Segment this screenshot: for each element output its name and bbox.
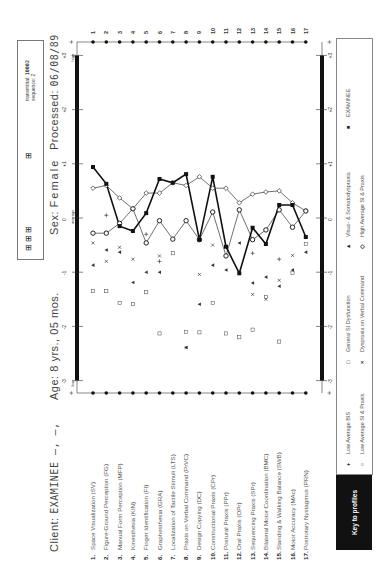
- score-tick-label: +3: [61, 53, 67, 59]
- row-dot: [184, 40, 188, 44]
- circle-marker-icon: [277, 208, 281, 212]
- score-tick-label: -2: [327, 325, 333, 329]
- triangle-marker-icon: [158, 270, 161, 274]
- key-to-profiles-title: Key to profiles: [336, 475, 372, 550]
- examinee-marker-icon: [158, 177, 162, 181]
- circle-marker-icon: [290, 225, 294, 229]
- triangle-marker-icon: [277, 284, 280, 288]
- circle-marker-icon: [91, 231, 95, 235]
- item-number: 11: [223, 28, 229, 34]
- triangle-marker-icon: [211, 263, 214, 267]
- row-dot: [277, 40, 281, 44]
- row-dot: [238, 391, 242, 395]
- row-dot: [131, 40, 135, 44]
- row-dot: [304, 40, 308, 44]
- square-marker-icon: [198, 331, 201, 334]
- triangle-marker-icon: [131, 281, 134, 285]
- score-tick-label: 0: [61, 218, 67, 221]
- square-marker-icon: [224, 332, 227, 335]
- legend-entry: □General SI Dysfunction: [345, 295, 351, 364]
- examinee-marker-icon: [237, 271, 241, 275]
- triangle-marker-icon: [264, 275, 267, 279]
- legend-symbol-icon: +: [345, 454, 351, 466]
- row-dot: [198, 40, 202, 44]
- triangle-marker-icon: [144, 270, 147, 274]
- legend-entry: ■EXAMINEE: [345, 89, 351, 129]
- circle-marker-icon: [184, 219, 188, 223]
- triangle-marker-icon: [91, 263, 94, 267]
- score-tick-label: -3: [327, 379, 333, 383]
- examinee-marker-icon: [251, 226, 255, 230]
- row-dot: [144, 40, 148, 44]
- circle-marker-icon: [264, 228, 268, 232]
- square-marker-icon: [145, 291, 148, 294]
- series-line-high-average-si-praxis: [93, 177, 306, 211]
- item-number: 13: [250, 28, 256, 34]
- series-line-low-average-si-praxis: [93, 209, 306, 256]
- row-dot: [224, 40, 228, 44]
- item-number: 10: [210, 28, 216, 34]
- item-number: 17: [303, 28, 309, 34]
- examinee-marker-icon: [224, 245, 228, 249]
- legend-label: General SI Dysfunction: [345, 295, 351, 352]
- score-tick-label: -1: [327, 271, 333, 275]
- square-marker-icon: [238, 336, 241, 339]
- square-marker-icon: [211, 301, 214, 304]
- diamond-marker-icon: [250, 192, 255, 197]
- examinee-marker-icon: [291, 203, 295, 207]
- diamond-marker-icon: [91, 186, 96, 191]
- row-dot: [158, 40, 162, 44]
- legend-symbol-icon: ◇: [359, 237, 365, 249]
- legend-box: +Low Average BIS○Low Average SI & Praxis…: [336, 38, 373, 475]
- row-dot: [264, 40, 268, 44]
- row-dot: [118, 391, 122, 395]
- item-number: 1: [90, 31, 96, 34]
- diamond-marker-icon: [264, 190, 269, 195]
- examinee-marker-icon: [277, 203, 281, 207]
- plus-icon: +: [326, 40, 333, 44]
- circle-marker-icon: [104, 231, 108, 235]
- legend-entry: ▲Visuo- & Somatodyspraxia: [345, 172, 351, 249]
- examinee-marker-icon: [264, 242, 268, 246]
- row-dot: [105, 391, 109, 395]
- examinee-marker-icon: [104, 182, 108, 186]
- legend-label: Low Average BIS: [345, 412, 351, 454]
- row-dot: [171, 391, 175, 395]
- series-line-examinee: [93, 167, 306, 273]
- row-dot: [291, 40, 295, 44]
- examinee-marker-icon: [171, 181, 175, 185]
- row-dot: [118, 40, 122, 44]
- item-number: 8: [183, 31, 189, 34]
- examinee-marker-icon: [118, 224, 122, 228]
- row-dot: [105, 40, 109, 44]
- examinee-marker-icon: [304, 235, 308, 239]
- row-dot: [304, 391, 308, 395]
- sipt-profile-page: transmittal: 10002 sequence: 2 ⊞ ⊞ ⊞ ⊞ C…: [0, 0, 376, 570]
- row-dot: [144, 391, 148, 395]
- score-anchor-label: low: [70, 381, 75, 387]
- legend-symbol-icon: □: [345, 352, 351, 364]
- triangle-marker-icon: [251, 281, 254, 285]
- item-number: 2: [103, 31, 109, 34]
- circle-marker-icon: [250, 237, 254, 241]
- score-tick-label: +2: [327, 107, 333, 113]
- row-dot: [171, 40, 175, 44]
- examinee-marker-icon: [211, 175, 215, 179]
- legend-entry: ◇High Average SI & Praxis: [359, 175, 365, 249]
- circle-marker-icon: [157, 219, 161, 223]
- legend-symbol-icon: ■: [345, 117, 351, 129]
- legend-label: EXAMINEE: [345, 89, 351, 117]
- triangle-marker-icon: [224, 268, 227, 272]
- score-tick-label: +1: [61, 161, 67, 167]
- row-dot: [277, 391, 281, 395]
- item-number: 6: [157, 31, 163, 34]
- square-marker-icon: [171, 252, 174, 255]
- square-marker-icon: [251, 328, 254, 331]
- row-dot: [158, 391, 162, 395]
- plus-icon: +: [68, 40, 75, 44]
- item-number: 16: [290, 28, 296, 34]
- item-number: 4: [130, 31, 136, 34]
- legend-symbol-icon: ×: [359, 352, 365, 364]
- circle-marker-icon: [237, 208, 241, 212]
- row-dot: [198, 391, 202, 395]
